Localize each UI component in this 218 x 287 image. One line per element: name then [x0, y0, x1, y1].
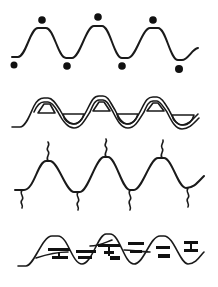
dot-icon — [175, 65, 183, 73]
panel-dots — [11, 13, 199, 73]
bar — [76, 250, 96, 253]
panel-squiggles — [15, 139, 204, 210]
squiggle-down — [187, 188, 189, 207]
panel-loops — [12, 96, 199, 129]
wave-line — [18, 234, 204, 266]
dot-icon — [149, 16, 157, 24]
bar — [128, 242, 144, 245]
squiggle-up — [47, 142, 49, 161]
squiggle-down — [21, 190, 23, 208]
squiggle-down — [129, 190, 131, 210]
bar — [110, 256, 120, 260]
dot-icon — [11, 62, 18, 69]
dot-icon — [94, 13, 102, 21]
dot-icon — [118, 62, 126, 70]
wave-line — [12, 26, 198, 60]
bar-connector — [190, 243, 192, 250]
panel-bars — [18, 234, 204, 266]
bar — [48, 248, 70, 251]
figure-canvas — [0, 0, 218, 287]
bar — [78, 256, 92, 259]
dot-icon — [38, 16, 46, 24]
dot-icon — [63, 62, 71, 70]
squiggle-down — [77, 192, 79, 210]
bar — [156, 246, 170, 249]
bar-connector — [58, 252, 60, 257]
bar — [158, 254, 170, 258]
wave-line — [15, 157, 204, 192]
bar-connector — [108, 246, 110, 256]
squiggle-up — [161, 140, 163, 158]
bar — [130, 250, 142, 253]
squiggle-up — [105, 139, 107, 157]
